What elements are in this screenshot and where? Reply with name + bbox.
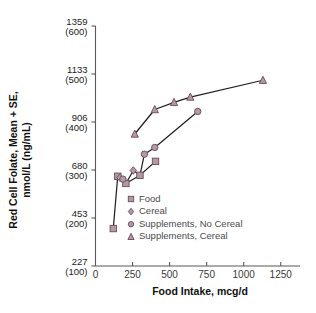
x-tick-label: 250 xyxy=(124,269,141,280)
x-tick-label: 500 xyxy=(161,269,178,280)
y-tick-label-secondary: (400) xyxy=(65,122,87,133)
y-tick-label-secondary: (300) xyxy=(65,170,87,181)
data-point-triangle xyxy=(259,76,266,83)
y-axis-tick-labels: 227(100)453(200)680(300)906(400)1133(500… xyxy=(65,16,87,278)
legend-label: Supplements, Cereal xyxy=(139,230,228,241)
data-point-circle xyxy=(152,144,158,150)
legend-marker-circle xyxy=(128,222,133,227)
x-axis: 025050075010001250 Food Intake, mcg/d xyxy=(93,262,300,297)
data-point-circle xyxy=(120,176,126,182)
data-point-diamond xyxy=(130,167,136,175)
x-tick-label: 750 xyxy=(198,269,215,280)
y-axis-title: Red Cell Folate, Mean + SE, nmol/L (ng/m… xyxy=(7,91,32,228)
y-tick-label-secondary: (200) xyxy=(65,218,87,229)
x-axis-ticks xyxy=(133,262,281,266)
series-connecting-lines xyxy=(113,80,263,228)
y-axis-ticks xyxy=(92,26,96,266)
chart-legend: FoodCerealSupplements, No CerealSuppleme… xyxy=(128,193,243,242)
chart-container: Red Cell Folate, Mean + SE, nmol/L (ng/m… xyxy=(0,0,316,313)
data-point-circle xyxy=(195,108,201,114)
legend-label: Cereal xyxy=(139,205,167,216)
legend-marker-diamond xyxy=(128,208,133,215)
x-axis-title: Food Intake, mcg/d xyxy=(152,285,248,297)
x-tick-label: 1000 xyxy=(233,269,256,280)
data-point-square xyxy=(152,158,158,164)
y-axis: 227(100)453(200)680(300)906(400)1133(500… xyxy=(65,16,95,278)
y-tick-label-primary: 453 xyxy=(72,208,88,219)
y-axis-title-line1: Red Cell Folate, Mean + SE, xyxy=(7,91,19,228)
x-axis-tick-labels: 025050075010001250 xyxy=(93,269,293,280)
legend-marker-triangle xyxy=(128,233,134,239)
y-tick-label-primary: 680 xyxy=(72,160,88,171)
data-point-square xyxy=(137,172,143,178)
y-axis-title-line2: nmol/L (ng/mL) xyxy=(20,122,32,198)
data-point-circle xyxy=(141,151,147,157)
legend-label: Supplements, No Cereal xyxy=(139,218,243,229)
red-cell-folate-scatter-chart: Red Cell Folate, Mean + SE, nmol/L (ng/m… xyxy=(0,0,316,313)
y-tick-label-primary: 227 xyxy=(72,256,88,267)
y-tick-label-secondary: (500) xyxy=(65,74,87,85)
y-tick-label-primary: 1133 xyxy=(67,64,87,75)
legend-marker-square xyxy=(128,196,133,201)
y-tick-label-secondary: (600) xyxy=(65,26,87,37)
x-tick-label: 1250 xyxy=(270,269,293,280)
data-point-square xyxy=(110,225,116,231)
y-tick-label-primary: 906 xyxy=(72,112,88,123)
x-tick-label: 0 xyxy=(93,269,99,280)
legend-label: Food xyxy=(139,193,161,204)
y-tick-label-primary: 1359 xyxy=(66,16,87,27)
y-tick-label-secondary: (100) xyxy=(65,266,87,277)
series-data-markers xyxy=(110,76,266,232)
